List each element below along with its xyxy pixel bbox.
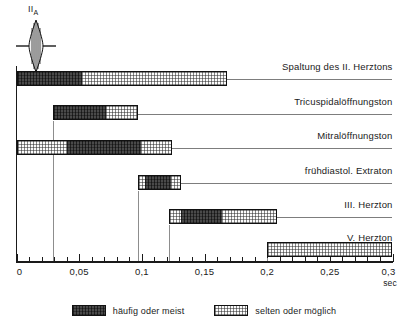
bar-label: Tricuspidalöffnungston — [294, 96, 392, 107]
bar-label: Mitralöffnungston — [317, 130, 392, 141]
heart-sound-label-sub: A — [34, 9, 39, 16]
legend: häufig oder meist selten oder möglich — [0, 305, 408, 316]
axis-vertical-left — [16, 66, 17, 262]
guide-line-5 — [169, 225, 170, 261]
axis-tick-minor-0.06 — [92, 257, 93, 261]
legend-label-rare: selten oder möglich — [255, 306, 336, 316]
legend-swatch-rare — [214, 305, 248, 316]
bar-segment-heavy — [181, 210, 222, 223]
axis-tick-minor-0.21 — [280, 257, 281, 261]
bar-segment-heavy — [18, 72, 83, 85]
heart-sound-spindle-icon — [16, 18, 56, 74]
axis-tick-label-0,05: 0,05 — [59, 266, 99, 277]
label-rule-1 — [227, 79, 392, 80]
axis-tick-upper-0.3 — [393, 255, 394, 262]
label-rule-2 — [138, 114, 392, 115]
bar-segment-light — [171, 176, 179, 189]
bar-row — [169, 209, 277, 224]
bar-segment-light — [106, 106, 137, 119]
axis-tick-minor-0.27 — [355, 257, 356, 261]
bar-row — [53, 105, 138, 120]
axis-tick-minor-0.28 — [367, 257, 368, 261]
axis-tick-minor-0.09 — [129, 257, 130, 261]
heart-sound-timing-chart: IIA 00,050,10,150,20,250,3 sec Spaltung … — [0, 0, 408, 328]
axis-tick-upper-0.05 — [79, 255, 80, 262]
ecg-icon-group: IIA — [8, 4, 64, 74]
axis-tick-minor-0.29 — [380, 257, 381, 261]
bar-segment-light — [222, 210, 276, 223]
axis-tick-minor-0.03 — [54, 257, 55, 261]
bar-label: Spaltung des II. Herztons — [282, 61, 392, 72]
legend-label-frequent: häufig oder meist — [113, 306, 185, 316]
second-heart-sound-label: IIA — [28, 4, 39, 16]
axis-tick-minor-0.14 — [192, 257, 193, 261]
label-rule-4 — [181, 183, 393, 184]
axis-tick-minor-0.07 — [104, 257, 105, 261]
axis-tick-minor-0.17 — [230, 257, 231, 261]
axis-tick-minor-0.18 — [242, 257, 243, 261]
bar-row — [138, 175, 181, 190]
label-rule-3 — [172, 148, 393, 149]
guide-line-4 — [138, 191, 139, 261]
bar-segment-light — [268, 243, 391, 256]
axis-tick-upper-0.15 — [205, 255, 206, 262]
bar-segment-light — [141, 141, 171, 154]
axis-tick-minor-0.13 — [179, 257, 180, 261]
bar-row — [17, 140, 172, 155]
bar-label: V. Herzton — [347, 232, 393, 243]
axis-tick-minor-0.26 — [342, 257, 343, 261]
bar-segment-heavy — [54, 106, 107, 119]
axis-tick-minor-0.22 — [292, 257, 293, 261]
axis-tick-label-0,15: 0,15 — [185, 266, 225, 277]
axis-tick-label-0,1: 0,1 — [122, 266, 162, 277]
axis-unit-label: sec — [383, 278, 397, 288]
axis-tick-minor-0.08 — [117, 257, 118, 261]
axis-tick-minor-0.02 — [42, 257, 43, 261]
guide-line-6 — [267, 258, 268, 261]
bar-row — [267, 242, 392, 257]
axis-tick-minor-0.24 — [317, 257, 318, 261]
legend-item-rare: selten oder möglich — [214, 305, 336, 316]
axis-tick-minor-0.23 — [305, 257, 306, 261]
legend-swatch-frequent — [72, 305, 106, 316]
axis-tick-minor-0.11 — [154, 257, 155, 261]
axis-tick-minor-0.16 — [217, 257, 218, 261]
axis-tick-label-0,3: 0,3 — [369, 266, 408, 277]
axis-tick-label-0,25: 0,25 — [310, 266, 350, 277]
axis-tick-minor-0.19 — [255, 257, 256, 261]
bar-label: frühdiastol. Extraton — [305, 165, 393, 176]
label-rule-5 — [277, 217, 392, 218]
bar-segment-heavy — [67, 141, 141, 154]
bar-segment-light — [82, 72, 226, 85]
axis-tick-upper-0 — [17, 255, 18, 262]
axis-tick-minor-0.12 — [167, 257, 168, 261]
bar-segment-light — [18, 141, 67, 154]
legend-item-frequent: häufig oder meist — [72, 305, 185, 316]
bar-label: III. Herzton — [344, 199, 392, 210]
axis-tick-minor-0.04 — [67, 257, 68, 261]
bar-row — [17, 71, 228, 86]
axis-tick-label-0,2: 0,2 — [247, 266, 287, 277]
axis-tick-label-0: 0 — [0, 266, 40, 277]
axis-tick-upper-0.1 — [142, 255, 143, 262]
bar-segment-light — [170, 210, 181, 223]
axis-tick-minor-0.01 — [29, 257, 30, 261]
bar-segment-heavy — [145, 176, 171, 189]
